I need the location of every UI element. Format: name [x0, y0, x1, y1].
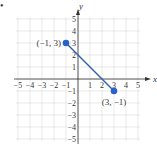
- svg-text:4: 4: [124, 81, 128, 90]
- svg-text:y: y: [78, 1, 83, 11]
- svg-text:−2: −2: [50, 81, 59, 90]
- svg-text:−4: −4: [26, 81, 35, 90]
- svg-text:(−1, 3): (−1, 3): [36, 38, 61, 48]
- svg-text:−3: −3: [67, 111, 76, 120]
- data-point: [111, 88, 118, 95]
- svg-text:(3, −1): (3, −1): [102, 97, 127, 107]
- svg-text:−2: −2: [67, 99, 76, 108]
- svg-text:3: 3: [72, 39, 76, 48]
- svg-text:1: 1: [88, 81, 92, 90]
- svg-text:−4: −4: [67, 123, 76, 132]
- svg-text:4: 4: [72, 27, 76, 36]
- point-labels: (−1, 3)(3, −1): [36, 38, 126, 107]
- svg-text:5: 5: [72, 15, 76, 24]
- svg-text:x: x: [152, 74, 157, 84]
- coordinate-plane: xy −5−4−3−2−11234554321−1−2−3−4−5 (−1, 3…: [0, 0, 157, 149]
- tick-labels: −5−4−3−2−11234554321−1−2−3−4−5: [14, 15, 140, 144]
- svg-text:1: 1: [72, 63, 76, 72]
- x-axis-arrow-icon: [145, 77, 151, 81]
- svg-text:−5: −5: [14, 81, 23, 90]
- svg-text:−5: −5: [67, 135, 76, 144]
- svg-text:2: 2: [100, 81, 104, 90]
- svg-text:−1: −1: [67, 87, 76, 96]
- svg-text:5: 5: [136, 81, 140, 90]
- svg-text:−3: −3: [38, 81, 47, 90]
- data-point: [63, 40, 70, 47]
- axes: xy: [14, 1, 157, 144]
